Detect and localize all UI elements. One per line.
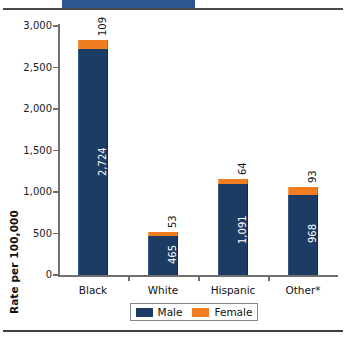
bar-value-label-male: 968	[308, 224, 318, 243]
x-axis-category-label: White	[123, 284, 203, 296]
y-axis-tick-label: 1,500	[0, 146, 52, 156]
legend-label-male: Male	[158, 307, 183, 318]
y-axis-tick-label: 500	[0, 229, 52, 239]
y-axis-tick	[53, 274, 59, 276]
x-axis-tick	[268, 275, 270, 281]
y-axis-tick	[53, 67, 59, 69]
y-axis-tick-label: 3,000	[0, 21, 52, 31]
legend-item-female: Female	[192, 307, 252, 318]
bottom-horizontal-rule	[3, 330, 343, 332]
y-axis-tick-label: 2,000	[0, 104, 52, 114]
bar-value-label-male: 2,724	[98, 147, 108, 176]
y-axis-tick-label: 0	[0, 270, 52, 280]
chart-figure: Rate per 100,000 05001,0001,5002,0002,50…	[0, 0, 346, 337]
x-axis-category-label: Black	[53, 284, 133, 296]
bar-segment-female	[78, 40, 108, 49]
y-axis-tick-label: 1,000	[0, 187, 52, 197]
bar-value-label-male: 465	[168, 245, 178, 264]
x-axis-tick	[198, 275, 200, 281]
bar-value-label-female: 64	[238, 162, 248, 175]
y-axis-tick	[53, 108, 59, 110]
y-axis-title: Rate per 100,000	[8, 194, 20, 314]
bar-value-label-female: 109	[98, 17, 108, 36]
orange-swatch-icon	[192, 308, 209, 317]
y-axis-tick	[53, 150, 59, 152]
bar-value-label-female: 53	[168, 215, 178, 228]
legend-item-male: Male	[136, 307, 183, 318]
y-axis-tick-label: 2,500	[0, 63, 52, 73]
y-axis-tick	[53, 25, 59, 27]
x-axis-tick	[128, 275, 130, 281]
bar-segment-female	[148, 232, 178, 236]
chart-legend: Male Female	[130, 303, 258, 321]
bar-segment-female	[288, 187, 318, 195]
bar-value-label-female: 93	[308, 170, 318, 183]
bar-value-label-male: 1,091	[238, 215, 248, 244]
y-axis-tick	[53, 233, 59, 235]
y-axis-tick	[53, 191, 59, 193]
navy-swatch-icon	[136, 308, 153, 317]
legend-label-female: Female	[214, 307, 252, 318]
x-axis-category-label: Hispanic	[193, 284, 273, 296]
top-horizontal-rule	[3, 8, 343, 10]
bar-segment-female	[218, 179, 248, 184]
x-axis-category-label: Other*	[263, 284, 343, 296]
